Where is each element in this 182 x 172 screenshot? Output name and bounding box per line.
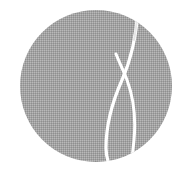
logo-mark-icon [0,0,182,172]
logo-circle [20,10,172,162]
logo [0,0,182,172]
